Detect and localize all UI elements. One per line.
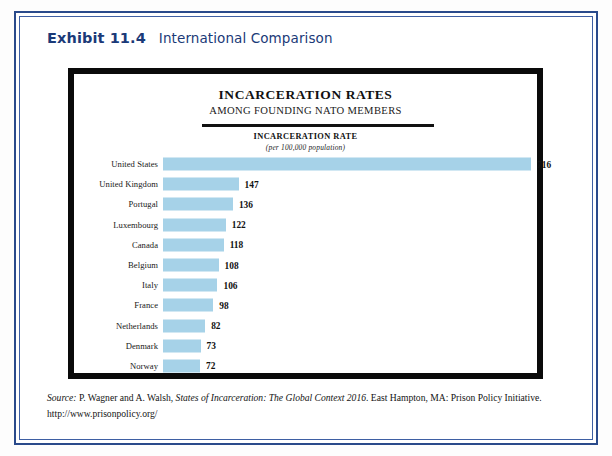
bar-track: 82 <box>163 319 531 332</box>
source-authors: P. Wagner and A. Walsh, <box>76 392 175 403</box>
bar-track: 73 <box>163 339 531 352</box>
exhibit-title: International Comparison <box>159 30 333 46</box>
bar-value-label: 72 <box>206 361 215 371</box>
bar-row: Denmark73 <box>74 336 537 356</box>
bar-fill <box>163 259 219 272</box>
bar-fill <box>163 299 213 312</box>
bar-row: Norway72 <box>74 356 537 376</box>
bar-fill <box>163 238 224 251</box>
exhibit-number: Exhibit 11.4 <box>47 30 146 46</box>
bar-chart-rows: United States716United Kingdom147Portuga… <box>74 154 537 376</box>
bar-category-label: Canada <box>74 240 158 250</box>
chart-title: INCARCERATION RATES <box>74 87 537 103</box>
bar-track: 122 <box>163 218 531 231</box>
bar-row: Belgium108 <box>74 255 537 275</box>
bar-value-label: 716 <box>537 159 551 169</box>
bar-track: 147 <box>163 178 531 191</box>
source-prefix: Source: <box>47 392 76 403</box>
bar-row: United Kingdom147 <box>74 174 537 194</box>
bar-track: 118 <box>163 238 531 251</box>
bar-fill <box>163 279 217 292</box>
title-divider <box>202 124 434 127</box>
bar-category-label: Luxembourg <box>74 220 158 230</box>
bar-category-label: Netherlands <box>74 321 158 331</box>
bar-fill <box>163 218 226 231</box>
bar-fill <box>163 339 201 352</box>
bar-category-label: France <box>74 300 158 310</box>
bar-fill <box>163 178 239 191</box>
bar-value-label: 122 <box>232 220 246 230</box>
bar-row: Netherlands82 <box>74 316 537 336</box>
bar-fill <box>163 319 205 332</box>
bar-category-label: United Kingdom <box>74 179 158 189</box>
bar-row: France98 <box>74 295 537 315</box>
bar-value-label: 106 <box>223 280 237 290</box>
bar-value-label: 108 <box>225 260 239 270</box>
bar-value-label: 98 <box>219 300 228 310</box>
bar-category-label: Norway <box>74 361 158 371</box>
source-work-title: States of Incarceration: The Global Cont… <box>176 392 366 403</box>
x-axis-label-note: (per 100,000 population) <box>74 143 537 152</box>
bar-fill <box>163 198 233 211</box>
bar-fill <box>163 158 531 171</box>
bar-track: 98 <box>163 299 531 312</box>
bar-row: Luxembourg122 <box>74 215 537 235</box>
bar-row: Italy106 <box>74 275 537 295</box>
bar-value-label: 73 <box>207 341 216 351</box>
bar-track: 136 <box>163 198 531 211</box>
source-url[interactable]: http://www.prisonpolicy.org/ <box>47 406 567 422</box>
source-publisher: . East Hampton, MA: Prison Policy Initia… <box>366 392 542 403</box>
bar-category-label: Portugal <box>74 199 158 209</box>
chart-frame: INCARCERATION RATES AMONG FOUNDING NATO … <box>68 68 543 379</box>
bar-value-label: 147 <box>245 179 259 189</box>
bar-row: United States716 <box>74 154 537 174</box>
bar-fill <box>163 359 200 372</box>
bar-row: Canada118 <box>74 235 537 255</box>
exhibit-caption: Exhibit 11.4International Comparison <box>47 30 333 46</box>
bar-track: 72 <box>163 359 531 372</box>
bar-value-label: 136 <box>239 199 253 209</box>
bar-track: 106 <box>163 279 531 292</box>
source-note: Source: P. Wagner and A. Walsh, States o… <box>47 390 567 421</box>
exhibit-page: Exhibit 11.4International Comparison INC… <box>0 0 612 456</box>
bar-value-label: 82 <box>211 321 220 331</box>
bar-row: Portugal136 <box>74 194 537 214</box>
bar-category-label: Italy <box>74 280 158 290</box>
bar-track: 108 <box>163 259 531 272</box>
bar-value-label: 118 <box>230 240 244 250</box>
bar-track: 716 <box>163 158 531 171</box>
bar-category-label: United States <box>74 159 158 169</box>
bar-category-label: Belgium <box>74 260 158 270</box>
x-axis-label: INCARCERATION RATE <box>74 132 537 141</box>
bar-category-label: Denmark <box>74 341 158 351</box>
chart-canvas: INCARCERATION RATES AMONG FOUNDING NATO … <box>74 74 537 373</box>
chart-subtitle: AMONG FOUNDING NATO MEMBERS <box>74 105 537 116</box>
